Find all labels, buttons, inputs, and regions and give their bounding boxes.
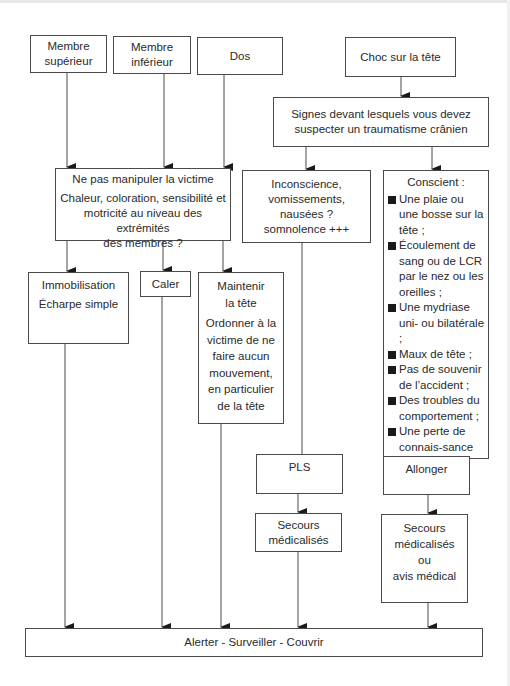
node-alerter-surveiller-couvrir: Alerter - Surveiller - Couvrir <box>25 628 483 657</box>
node-text: vomissements, <box>246 192 367 207</box>
node-text: Écharpe simple <box>32 297 125 312</box>
node-text: Ordonner à la <box>202 315 280 332</box>
node-text: motricité au niveau des extrémités <box>59 206 227 236</box>
node-text: Dos <box>230 49 250 64</box>
node-pls: PLS <box>256 454 343 494</box>
bullet-item: Écoulement de sang ou de LCR par le nez … <box>387 238 485 300</box>
node-title: Ne pas manipuler la victime <box>59 172 227 187</box>
bullet-item: Une mydriase uni- ou bilatérale ; <box>387 300 485 347</box>
node-text: victime de ne <box>202 332 280 349</box>
node-ne-pas-manipuler: Ne pas manipuler la victime Chaleur, col… <box>55 168 231 241</box>
node-inconscience: Inconscience, vomissements, nausées ? so… <box>242 170 371 243</box>
node-allonger: Allonger <box>383 456 470 495</box>
node-membre-superieur: Membre supérieur <box>30 35 107 73</box>
node-text: PLS <box>260 460 339 475</box>
node-title: Maintenir <box>202 278 280 295</box>
bullet-item: Une plaie ou une bosse sur la tête ; <box>387 192 485 239</box>
node-text: de la tête <box>202 398 280 415</box>
node-conscient: Conscient : Une plaie ou une bosse sur l… <box>383 170 489 459</box>
bullet-item: Maux de tête ; <box>387 347 485 363</box>
node-text: ou <box>385 552 464 568</box>
node-text: des membres ? <box>59 236 227 251</box>
node-text: Secours <box>277 518 319 533</box>
node-text: Membre <box>47 39 89 54</box>
node-text: Allonger <box>387 462 466 477</box>
node-text: Alerter - Surveiller - Couvrir <box>184 635 323 650</box>
node-text: suspecter un traumatisme crânien <box>294 122 467 137</box>
node-text: faire aucun <box>202 348 280 365</box>
node-secours-ou-avis-medical: Secours médicalisés ou avis médical <box>381 514 468 603</box>
node-text: supérieur <box>45 54 93 69</box>
node-signes-traumatisme: Signes devant lesquels vous devez suspec… <box>273 97 489 147</box>
node-text: inférieur <box>131 55 173 70</box>
node-text: en particulier <box>202 381 280 398</box>
node-membre-inferieur: Membre inférieur <box>113 36 191 74</box>
node-text: somnolence +++ <box>246 222 367 237</box>
node-text: Caler <box>152 277 179 292</box>
node-text: Inconscience, <box>246 177 367 192</box>
node-text: Secours <box>385 520 464 536</box>
bullet-item: Des troubles du comportement ; <box>387 393 485 424</box>
node-choc-sur-la-tete: Choc sur la tête <box>345 37 456 77</box>
node-dos: Dos <box>197 37 283 75</box>
node-immobilisation: Immobilisation Écharpe simple <box>28 272 129 344</box>
node-text: Chaleur, coloration, sensibilité et <box>59 191 227 206</box>
node-text: Choc sur la tête <box>360 50 441 65</box>
node-text: Signes devant lesquels vous devez <box>291 107 471 122</box>
node-text: Membre <box>131 40 173 55</box>
node-text: médicalisés <box>385 536 464 552</box>
node-secours-medicalises: Secours médicalisés <box>255 513 342 552</box>
bullet-item: Pas de souvenir de l’accident ; <box>387 362 485 393</box>
node-text: Immobilisation <box>32 278 125 293</box>
node-maintenir-la-tete: Maintenir la tête Ordonner à la victime … <box>198 272 284 424</box>
node-text: nausées ? <box>246 207 367 222</box>
node-title: Conscient : <box>387 175 485 191</box>
node-title: la tête <box>202 295 280 312</box>
node-text: mouvement, <box>202 365 280 382</box>
node-text: médicalisés <box>268 533 328 548</box>
node-caler: Caler <box>140 271 191 297</box>
node-text: avis médical <box>385 568 464 584</box>
